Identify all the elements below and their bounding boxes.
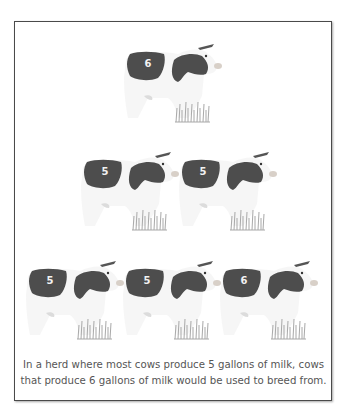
cow-icon [20, 255, 132, 343]
cow-icon [214, 255, 326, 343]
caption-line-2: that produce 6 gallons of milk would be … [14, 373, 333, 389]
cow-icon [117, 255, 229, 343]
cow-row2-1: 5 [75, 146, 187, 234]
milk-gallons-label: 5 [93, 166, 117, 177]
milk-gallons-label: 5 [38, 275, 62, 286]
cow-row1-1: 6 [118, 38, 230, 126]
cow-row3-3: 6 [214, 255, 326, 343]
cow-icon [75, 146, 187, 234]
cow-row2-2: 5 [173, 146, 285, 234]
cow-icon [173, 146, 285, 234]
milk-gallons-label: 5 [191, 166, 215, 177]
milk-gallons-label: 6 [232, 275, 256, 286]
cow-row3-1: 5 [20, 255, 132, 343]
cow-icon [118, 38, 230, 126]
caption-line-1: In a herd where most cows produce 5 gall… [14, 357, 333, 373]
figure-caption: In a herd where most cows produce 5 gall… [14, 357, 333, 388]
milk-gallons-label: 6 [136, 58, 160, 69]
milk-gallons-label: 5 [135, 275, 159, 286]
cow-row3-2: 5 [117, 255, 229, 343]
